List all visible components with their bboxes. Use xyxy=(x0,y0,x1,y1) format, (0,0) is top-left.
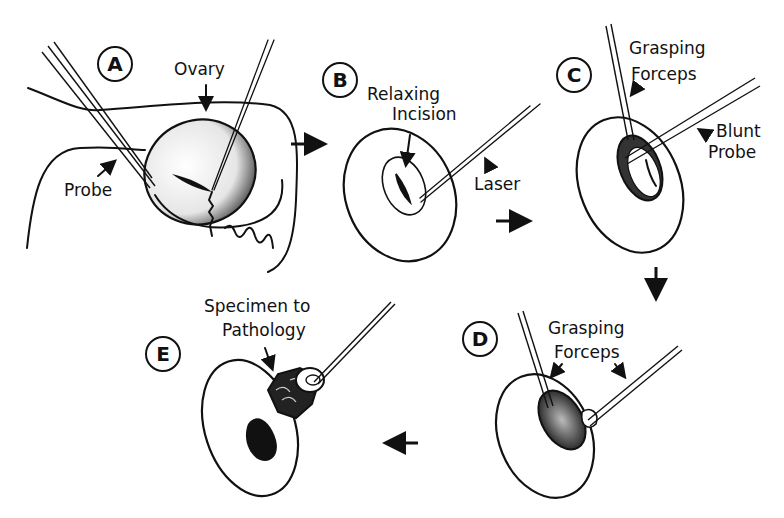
step-a-letter: A xyxy=(107,52,123,76)
specimen-arrow xyxy=(265,348,272,368)
label-grasping: Grasping xyxy=(629,38,706,58)
label-forceps-d: Forceps xyxy=(554,342,620,362)
label-blunt: Blunt xyxy=(716,121,761,141)
step-d-letter: D xyxy=(472,327,489,351)
label-laser: Laser xyxy=(474,174,520,194)
label-relaxing: Relaxing xyxy=(367,84,440,104)
fallopian-coil xyxy=(225,226,273,248)
step-e-letter: E xyxy=(156,342,170,366)
label-probe: Probe xyxy=(64,180,112,200)
specimen xyxy=(268,368,324,418)
forceps-arrow-left xyxy=(552,364,562,376)
label-probe-c: Probe xyxy=(708,142,756,162)
forceps-arrow xyxy=(632,86,638,94)
panel-c: C Grasping Forceps Blunt Probe xyxy=(557,24,761,269)
probe-arrow xyxy=(98,162,114,176)
panel-b: B Relaxing Incision Laser xyxy=(323,63,540,278)
panel-d: D Grasping Forceps xyxy=(463,311,682,513)
laser-arrow xyxy=(486,160,490,168)
blunt-probe-arrow xyxy=(700,130,708,135)
label-forceps: Forceps xyxy=(631,64,697,84)
label-incision: Incision xyxy=(392,104,457,124)
panel-a: A Ovary Probe xyxy=(27,40,297,272)
procedure-diagram: A Ovary Probe B Relax xyxy=(0,0,784,518)
step-b-letter: B xyxy=(332,68,347,92)
label-specimen-to: Specimen to xyxy=(204,296,310,316)
panel-e: E Specimen to Pathology xyxy=(146,296,395,508)
step-c-letter: C xyxy=(567,63,582,87)
forceps-arrow-right xyxy=(615,364,624,376)
label-ovary: Ovary xyxy=(174,59,225,79)
ovary xyxy=(130,104,271,240)
label-grasping-d: Grasping xyxy=(548,318,625,338)
label-pathology: Pathology xyxy=(222,320,306,340)
extraction-forceps xyxy=(314,302,395,384)
